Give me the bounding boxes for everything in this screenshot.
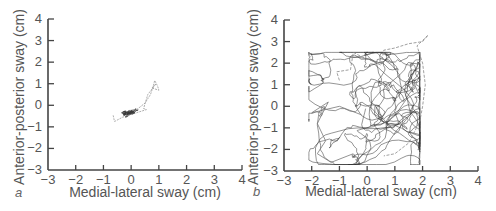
x-axis-title-a: Medial-lateral sway (cm) xyxy=(69,184,221,200)
sway-path-excursion-left xyxy=(312,102,362,162)
y-tick-label: 0 xyxy=(271,98,278,113)
sway-path-core xyxy=(121,109,137,118)
panel-label-a: a xyxy=(15,185,22,200)
y-ticks-b: −3−2−101234 xyxy=(263,12,290,178)
x-tick-label: −3 xyxy=(41,172,56,187)
y-tick-label: 4 xyxy=(35,11,42,26)
panel-a: −3−2−101234 −3−2−101234 Anterior-posteri… xyxy=(11,9,246,200)
y-tick-label: −1 xyxy=(263,120,278,135)
y-tick-label: 0 xyxy=(35,97,42,112)
y-axis-title-a: Anterior-posterior sway (cm) xyxy=(11,9,27,185)
y-tick-label: 1 xyxy=(271,77,278,92)
sway-figure: −3−2−101234 −3−2−101234 Anterior-posteri… xyxy=(0,0,496,211)
x-tick-label: −3 xyxy=(277,173,292,188)
y-tick-label: −2 xyxy=(263,141,278,156)
y-tick-label: −1 xyxy=(27,119,42,134)
y-tick-label: 3 xyxy=(271,34,278,49)
sway-trace-a xyxy=(113,81,159,122)
sway-trace-b xyxy=(309,35,428,164)
y-ticks-a: −3−2−101234 xyxy=(27,11,54,177)
x-tick-label: 4 xyxy=(474,173,481,188)
y-tick-label: 4 xyxy=(271,12,278,27)
y-tick-label: 1 xyxy=(35,76,42,91)
sway-path-tail xyxy=(113,81,159,122)
y-tick-label: 2 xyxy=(35,54,42,69)
x-axis-title-b: Medial-lateral sway (cm) xyxy=(305,183,457,199)
y-tick-label: 2 xyxy=(271,55,278,70)
y-tick-label: −2 xyxy=(27,140,42,155)
panel-b: −3−2−101234 −3−2−101234 Anterior-posteri… xyxy=(245,9,482,199)
y-axis-title-b: Anterior-posterior sway (cm) xyxy=(245,9,261,185)
y-tick-label: 3 xyxy=(35,33,42,48)
panel-label-b: b xyxy=(253,184,260,199)
